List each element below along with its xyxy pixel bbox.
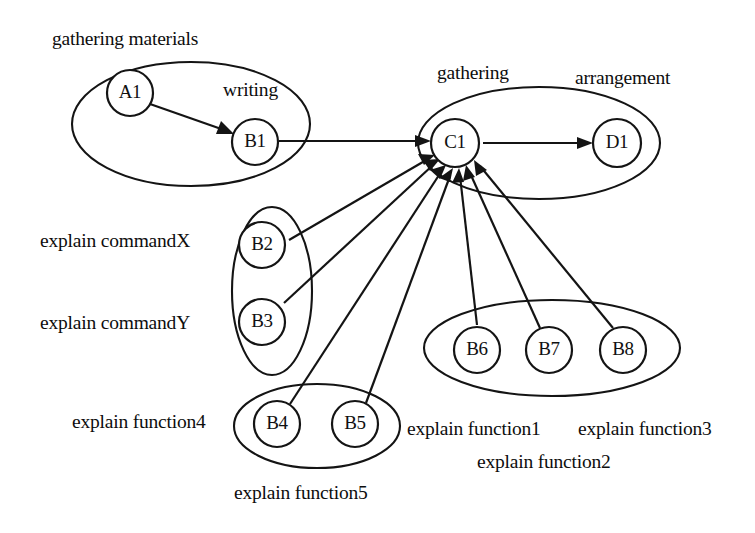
node-b8-label: B8 [612, 338, 634, 359]
caption-explain-function1: explain function1 [407, 419, 541, 439]
node-d1-label: D1 [606, 131, 629, 152]
group-ellipses-layer [72, 62, 680, 468]
edge-a1-b1-line [150, 104, 227, 131]
node-b1-label: B1 [244, 130, 266, 151]
caption-explain-commandy: explain commandY [40, 313, 190, 333]
caption-arrangement: arrangement [575, 68, 670, 88]
edge-c1-d1[interactable] [483, 137, 593, 149]
node-a1[interactable]: A1 [107, 70, 153, 116]
node-a1-label: A1 [119, 81, 142, 102]
node-b4-label: B4 [266, 412, 288, 433]
edge-a1-b1-arrowhead [216, 121, 234, 134]
nodes-layer: A1 B1 C1 D1 B2 B3 [107, 70, 646, 447]
node-b5[interactable]: B5 [332, 401, 378, 447]
node-b8[interactable]: B8 [600, 327, 646, 373]
node-b7[interactable]: B7 [526, 327, 572, 373]
caption-explain-function4: explain function4 [72, 412, 206, 432]
node-b3-label: B3 [251, 310, 273, 331]
node-c1-label: C1 [444, 131, 466, 152]
edge-b3-c1[interactable] [284, 159, 440, 303]
node-b2[interactable]: B2 [239, 222, 285, 268]
caption-explain-function2: explain function2 [477, 452, 611, 472]
caption-gathering: gathering [437, 63, 509, 83]
node-b2-label: B2 [251, 233, 273, 254]
caption-gathering-materials: gathering materials [52, 29, 198, 49]
caption-writing: writing [223, 80, 278, 100]
node-c1[interactable]: C1 [431, 119, 479, 167]
edge-b8-c1[interactable] [474, 160, 613, 328]
node-b6-label: B6 [466, 338, 488, 359]
node-d1[interactable]: D1 [593, 119, 641, 167]
edge-a1-b1[interactable] [150, 104, 234, 134]
edge-b2-c1-line [289, 159, 428, 240]
edge-b5-c1[interactable] [366, 168, 453, 403]
caption-explain-function3: explain function3 [578, 419, 712, 439]
edge-b1-c1-arrowhead [415, 135, 431, 147]
caption-explain-function5: explain function5 [234, 483, 368, 503]
node-b1[interactable]: B1 [232, 119, 278, 165]
caption-explain-commandx: explain commandX [40, 231, 190, 251]
edge-b2-c1[interactable] [289, 154, 435, 240]
diagram-canvas: A1 B1 C1 D1 B2 B3 [0, 0, 755, 533]
edge-b6-c1[interactable] [452, 168, 477, 325]
node-b3[interactable]: B3 [239, 299, 285, 345]
node-b5-label: B5 [344, 412, 366, 433]
node-b6[interactable]: B6 [454, 327, 500, 373]
edge-b6-c1-line [460, 176, 477, 325]
edge-b6-c1-arrowhead [452, 168, 464, 183]
edge-c1-d1-arrowhead [577, 137, 593, 149]
node-b4[interactable]: B4 [254, 401, 300, 447]
edge-b4-c1[interactable] [290, 165, 446, 404]
node-b7-label: B7 [538, 338, 560, 359]
